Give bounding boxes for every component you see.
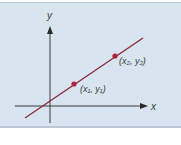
coordinate-diagram: y x (x₁, y₁) (x₂, y₂) — [0, 0, 181, 145]
point-2-marker — [112, 53, 117, 58]
x-axis — [15, 103, 148, 109]
point-2-label: (x₂, y₂) — [119, 56, 146, 66]
y-axis — [47, 26, 53, 123]
x-axis-label: x — [150, 101, 157, 112]
y-axis-arrow-icon — [47, 26, 53, 34]
y-axis-label: y — [46, 10, 53, 21]
x-axis-arrow-icon — [140, 103, 148, 109]
point-1-marker — [71, 81, 76, 86]
point-1-label: (x₁, y₁) — [80, 84, 106, 94]
